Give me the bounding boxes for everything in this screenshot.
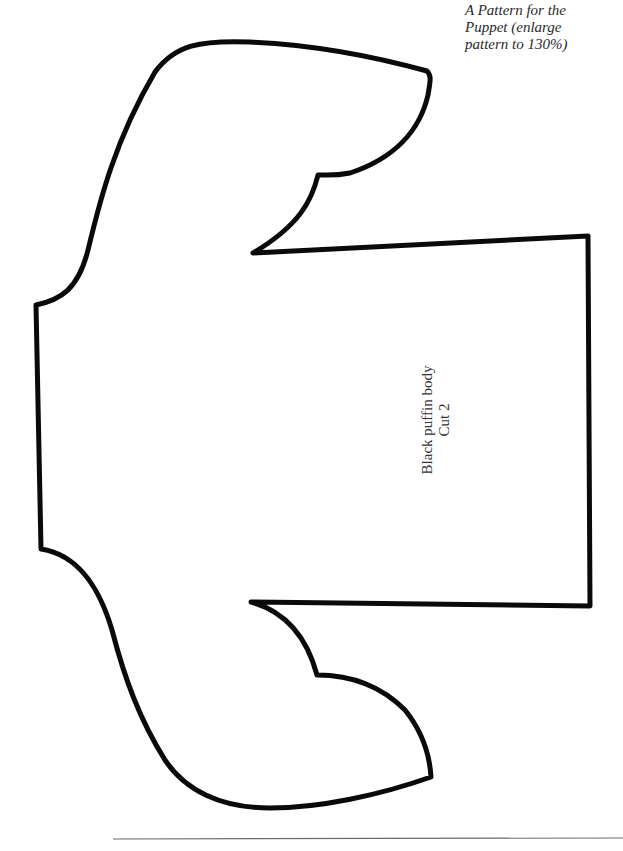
piece-instruction: Cut 2 xyxy=(436,366,453,475)
footer-rule xyxy=(113,838,623,839)
piece-label-text: Black puffin body Cut 2 xyxy=(419,366,453,475)
caption-line-1: A Pattern for the xyxy=(465,2,623,19)
puffin-body-outline xyxy=(36,42,590,808)
pattern-caption: A Pattern for the Puppet (enlarge patter… xyxy=(465,2,623,53)
caption-line-2: Puppet (enlarge xyxy=(465,19,623,36)
pattern-canvas xyxy=(0,0,623,851)
caption-line-3: pattern to 130%) xyxy=(465,36,623,53)
piece-name: Black puffin body xyxy=(419,366,436,475)
